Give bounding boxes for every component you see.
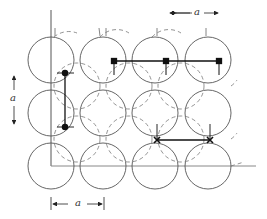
bottom-spacing-label: a: [73, 198, 83, 208]
lattice-diagram: [0, 0, 267, 219]
top-horizontal-bond: [112, 59, 222, 76]
square-marker: [164, 59, 169, 64]
left-spacing-label: a: [8, 93, 18, 103]
dot-marker: [62, 124, 67, 129]
vertical-bond: [57, 70, 74, 129]
top-spacing-label: a: [192, 7, 202, 17]
square-marker: [112, 59, 117, 64]
lower-horizontal-bond: [154, 124, 213, 143]
square-marker: [217, 59, 222, 64]
dot-marker: [62, 70, 67, 75]
